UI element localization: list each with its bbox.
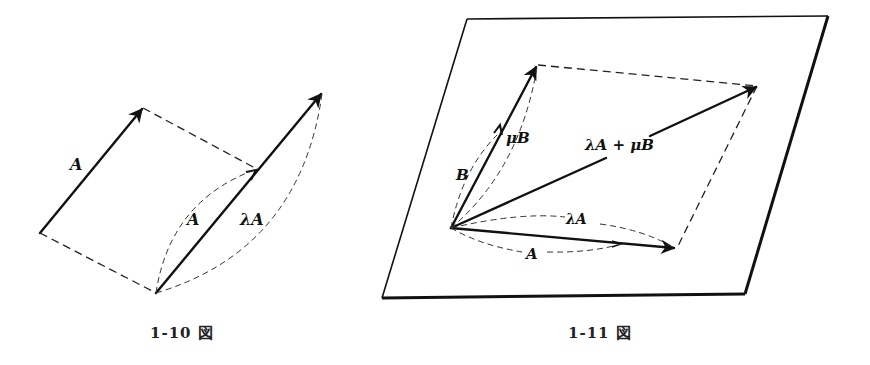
- dashed-edge-right: [677, 86, 757, 248]
- plane-edge-bottom: [382, 294, 745, 298]
- dashed-edge-top: [538, 65, 757, 86]
- vector-b-midpoint-arrowhead: [494, 125, 502, 135]
- label-vector-a: A: [68, 155, 82, 174]
- label-inner-a: A: [185, 210, 199, 229]
- caption-figure-1-10: 1-10 図: [150, 321, 214, 342]
- label-a: A: [524, 245, 538, 263]
- label-lambda-a: λA: [565, 211, 587, 227]
- label-sum: λA + μB: [584, 136, 654, 154]
- diagram-canvas: A A λA B μB λA + μB λA A: [0, 0, 870, 365]
- caption-figure-1-11: 1-11 図: [568, 321, 632, 342]
- vector-lambda-a: [451, 228, 674, 248]
- label-lambda-a: λA: [239, 210, 264, 229]
- figure-1-11: B μB λA + μB λA A: [382, 16, 828, 298]
- plane-edge-left: [382, 19, 467, 298]
- dashed-edge-top: [143, 108, 257, 169]
- plane-edge-right: [745, 16, 828, 294]
- vector-lambda-a: [156, 94, 321, 293]
- brace-a-right: [547, 244, 621, 252]
- figure-1-10: A A λA: [40, 94, 322, 293]
- label-mu-b: μB: [506, 129, 530, 147]
- dashed-edge-bottom: [40, 233, 156, 293]
- brace-lambda-a-left: [451, 216, 565, 228]
- plane-edge-top: [467, 16, 828, 19]
- label-b: B: [455, 166, 469, 184]
- vector-sum-upper: [650, 87, 756, 136]
- vector-a: [40, 109, 142, 233]
- vector-mu-b: [451, 67, 536, 228]
